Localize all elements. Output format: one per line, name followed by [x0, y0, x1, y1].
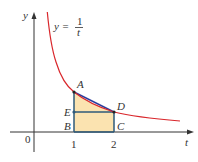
label-A: A	[76, 78, 84, 90]
tick-label-1: 1	[71, 138, 77, 150]
y-axis-arrow-icon	[32, 12, 37, 19]
x-axis-arrow-icon	[187, 130, 194, 135]
diagram: y t 0 1 2 A E B C D y = 1 t	[0, 0, 198, 162]
label-C: C	[117, 120, 125, 132]
label-B: B	[64, 120, 71, 132]
label-D: D	[116, 100, 125, 112]
x-axis-label: t	[185, 136, 189, 148]
point-D	[112, 110, 115, 113]
y-axis-label: y	[22, 9, 28, 21]
point-E	[72, 110, 75, 113]
origin-label: 0	[25, 133, 31, 145]
equation-lhs: y =	[53, 20, 69, 32]
label-E: E	[63, 106, 71, 118]
point-A	[72, 90, 75, 93]
tick-label-2: 2	[111, 138, 117, 150]
equation: y = 1 t	[53, 15, 83, 38]
